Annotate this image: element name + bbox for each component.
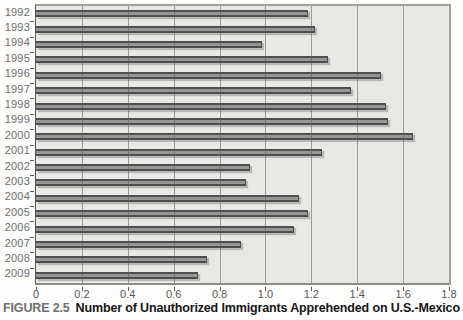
- bar-1993: [36, 26, 315, 33]
- x-label-1.0: 1.0: [248, 288, 282, 300]
- y-axis-tick: [30, 160, 34, 161]
- y-axis-tick: [30, 21, 34, 22]
- y-label-2005: 2005: [0, 204, 30, 219]
- bar-1996: [36, 72, 381, 79]
- y-axis-tick: [30, 98, 34, 99]
- y-axis-tick: [30, 114, 34, 115]
- y-label-1993: 1993: [0, 19, 30, 34]
- y-label-1992: 1992: [0, 4, 30, 19]
- x-label-0.4: 0.4: [111, 288, 145, 300]
- y-axis-tick: [30, 83, 34, 84]
- y-axis-tick: [30, 145, 34, 146]
- x-label-1.4: 1.4: [340, 288, 374, 300]
- y-label-1994: 1994: [0, 35, 30, 50]
- y-axis-tick: [30, 252, 34, 253]
- y-label-2000: 2000: [0, 127, 30, 142]
- y-label-2007: 2007: [0, 235, 30, 250]
- y-axis-tick: [30, 175, 34, 176]
- y-label-2004: 2004: [0, 189, 30, 204]
- y-label-2008: 2008: [0, 250, 30, 265]
- y-axis-tick: [30, 237, 34, 238]
- figure-caption: FIGURE 2.5Number of Unauthorized Immigra…: [3, 301, 460, 315]
- x-label-0: 0: [19, 288, 53, 300]
- y-axis-labels: 1992199319941995199619971998199920002001…: [0, 4, 30, 281]
- y-label-2001: 2001: [0, 143, 30, 158]
- gridline-1.0: [265, 6, 266, 283]
- figure-2-5: 1992199319941995199619971998199920002001…: [0, 0, 463, 320]
- bar-1997: [36, 87, 351, 94]
- x-label-0.8: 0.8: [203, 288, 237, 300]
- bar-1998: [36, 103, 386, 110]
- gridline-0.8: [220, 6, 221, 283]
- bar-1999: [36, 118, 388, 125]
- gridline-0.2: [82, 6, 83, 283]
- plot-area: [35, 4, 451, 285]
- bar-1995: [36, 56, 328, 63]
- y-axis-tick: [30, 191, 34, 192]
- bar-2008: [36, 256, 207, 263]
- y-label-2006: 2006: [0, 219, 30, 234]
- y-axis-tick: [30, 206, 34, 207]
- gridline-1.2: [311, 6, 312, 283]
- x-axis-labels: 00.20.40.60.81.01.21.41.61.8: [36, 288, 449, 301]
- x-label-1.8: 1.8: [432, 288, 463, 300]
- y-label-1997: 1997: [0, 81, 30, 96]
- figure-caption-text: Number of Unauthorized Immigrants Appreh…: [76, 301, 460, 315]
- x-label-0.6: 0.6: [157, 288, 191, 300]
- bar-2006: [36, 226, 294, 233]
- gridline-0.4: [128, 6, 129, 283]
- bar-1992: [36, 10, 308, 17]
- y-label-1995: 1995: [0, 50, 30, 65]
- bar-2002: [36, 164, 250, 171]
- y-axis-tick: [30, 37, 34, 38]
- y-label-1998: 1998: [0, 96, 30, 111]
- y-label-1999: 1999: [0, 112, 30, 127]
- gridline-1.4: [357, 6, 358, 283]
- y-axis-tick: [30, 68, 34, 69]
- y-label-2002: 2002: [0, 158, 30, 173]
- y-label-2003: 2003: [0, 173, 30, 188]
- y-axis-tick: [30, 268, 34, 269]
- y-label-2009: 2009: [0, 266, 30, 281]
- x-label-1.2: 1.2: [294, 288, 328, 300]
- bar-1994: [36, 41, 262, 48]
- y-axis-tick: [30, 221, 34, 222]
- gridline-0.6: [174, 6, 175, 283]
- bar-2005: [36, 210, 308, 217]
- bar-2001: [36, 149, 322, 156]
- bar-2007: [36, 241, 241, 248]
- figure-number-label: FIGURE 2.5: [3, 301, 76, 315]
- x-label-0.2: 0.2: [65, 288, 99, 300]
- y-axis-tick: [30, 129, 34, 130]
- bar-2003: [36, 179, 246, 186]
- x-label-1.6: 1.6: [386, 288, 420, 300]
- y-axis-tick: [30, 52, 34, 53]
- y-label-1996: 1996: [0, 66, 30, 81]
- bar-2004: [36, 195, 299, 202]
- gridline-1.6: [403, 6, 404, 283]
